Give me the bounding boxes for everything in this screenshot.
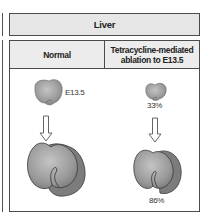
large-liver-percent-label: 86% [149, 196, 164, 205]
large-liver-ablation-icon [134, 150, 181, 193]
large-liver-normal-icon [27, 143, 85, 196]
small-liver-ablation-icon [146, 83, 166, 100]
down-arrow-ablation-icon [149, 118, 161, 142]
down-arrow-normal-icon [40, 116, 52, 141]
liver-diagram [0, 0, 213, 220]
small-liver-normal-icon [35, 80, 62, 105]
stage-label-e13-5: E13.5 [65, 88, 84, 97]
small-liver-percent-label: 33% [147, 101, 162, 110]
